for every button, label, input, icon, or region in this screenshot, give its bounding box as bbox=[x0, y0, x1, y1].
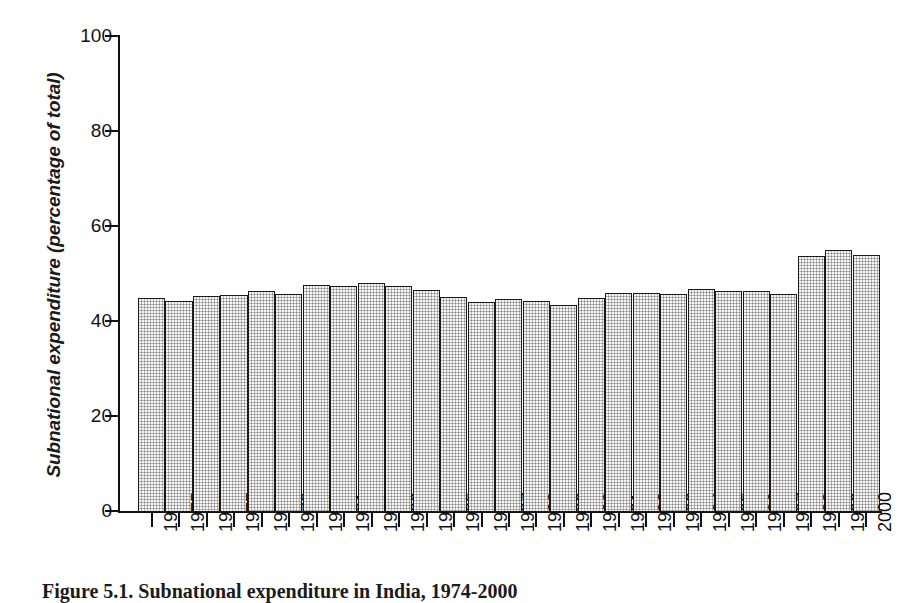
bar-1989[interactable] bbox=[550, 305, 577, 512]
x-tick-mark-1997 bbox=[783, 513, 785, 527]
bar-1979[interactable] bbox=[275, 294, 302, 513]
bar-1988[interactable] bbox=[523, 301, 550, 512]
bar-1996[interactable] bbox=[743, 291, 770, 512]
x-tick-mark-1989 bbox=[563, 513, 565, 527]
bar-1981[interactable] bbox=[330, 286, 357, 512]
bar-1984[interactable] bbox=[413, 290, 440, 512]
x-tick-mark-1979 bbox=[288, 513, 290, 527]
x-tick-mark-1996 bbox=[755, 513, 757, 527]
y-tick-mark-0 bbox=[105, 510, 120, 512]
x-tick-mark-1984 bbox=[426, 513, 428, 527]
bar-1991[interactable] bbox=[605, 293, 632, 512]
y-tick-mark-100 bbox=[105, 35, 120, 37]
x-tick-mark-1991 bbox=[618, 513, 620, 527]
bar-1985[interactable] bbox=[440, 297, 467, 512]
x-tick-mark-1980 bbox=[316, 513, 318, 527]
bar-1992[interactable] bbox=[633, 293, 660, 512]
x-tick-mark-1982 bbox=[371, 513, 373, 527]
bar-1980[interactable] bbox=[303, 285, 330, 512]
y-tick-mark-20 bbox=[105, 415, 120, 417]
bar-1974[interactable] bbox=[138, 298, 165, 512]
bar-1975[interactable] bbox=[165, 301, 192, 512]
bar-1990[interactable] bbox=[578, 298, 605, 512]
x-tick-mark-1978 bbox=[261, 513, 263, 527]
x-tick-mark-1974 bbox=[151, 513, 153, 527]
x-tick-mark-1998 bbox=[810, 513, 812, 527]
x-tick-mark-1976 bbox=[206, 513, 208, 527]
bar-1998[interactable] bbox=[798, 256, 825, 512]
x-tick-mark-1983 bbox=[398, 513, 400, 527]
x-tick-mark-1986 bbox=[481, 513, 483, 527]
x-tick-mark-1981 bbox=[343, 513, 345, 527]
bar-2000[interactable] bbox=[853, 255, 880, 512]
bar-1977[interactable] bbox=[220, 295, 247, 512]
x-tick-mark-2000 bbox=[865, 513, 867, 527]
bar-1987[interactable] bbox=[495, 299, 522, 512]
x-tick-mark-1987 bbox=[508, 513, 510, 527]
bar-1994[interactable] bbox=[688, 289, 715, 512]
y-tick-mark-80 bbox=[105, 130, 120, 132]
bar-1995[interactable] bbox=[715, 291, 742, 512]
x-tick-mark-1992 bbox=[645, 513, 647, 527]
y-tick-mark-60 bbox=[105, 225, 120, 227]
x-tick-mark-1985 bbox=[453, 513, 455, 527]
x-tick-mark-1999 bbox=[838, 513, 840, 527]
bar-1986[interactable] bbox=[468, 302, 495, 512]
bar-1997[interactable] bbox=[770, 294, 797, 513]
bar-1993[interactable] bbox=[660, 294, 687, 513]
x-tick-mark-1995 bbox=[728, 513, 730, 527]
bar-1999[interactable] bbox=[825, 250, 852, 512]
y-tick-mark-40 bbox=[105, 320, 120, 322]
x-tick-mark-1977 bbox=[233, 513, 235, 527]
x-tick-label-2000: 2000 bbox=[875, 492, 896, 532]
x-tick-mark-1993 bbox=[673, 513, 675, 527]
x-tick-mark-1975 bbox=[178, 513, 180, 527]
x-tick-mark-1988 bbox=[535, 513, 537, 527]
bar-1982[interactable] bbox=[358, 283, 385, 512]
bar-1976[interactable] bbox=[193, 296, 220, 512]
figure-caption: Figure 5.1. Subnational expenditure in I… bbox=[42, 580, 882, 603]
bar-1978[interactable] bbox=[248, 291, 275, 512]
x-tick-mark-1990 bbox=[590, 513, 592, 527]
bar-1983[interactable] bbox=[385, 286, 412, 512]
x-tick-mark-1994 bbox=[700, 513, 702, 527]
